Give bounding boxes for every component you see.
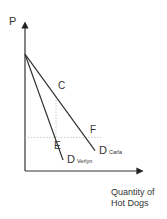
demand-line-carla [25,54,95,150]
x-axis-label-line2: Hot Dogs [111,198,149,208]
demand-chart: P Quantity of Hot Dogs DVerlynDCarla CEF [0,0,167,219]
x-axis-label-line1: Quantity of [111,187,155,197]
point-label-c: C [58,80,65,91]
point-label-e: E [54,140,61,151]
demand-label-verlyn: DVerlyn [67,153,92,165]
point-label-f: F [90,124,96,135]
demand-label-carla: DCarla [99,144,123,156]
y-axis-label: P [9,15,16,27]
